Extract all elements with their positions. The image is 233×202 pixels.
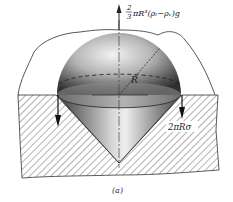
surface-tension-label: 2πRσ [167,122,191,132]
buoyancy-frac-den: 3 [127,13,132,21]
radius-label: R [130,75,138,85]
buoyancy-arrow-icon [117,4,122,13]
buoyancy-force-label: πR³(ρₗ−ρᵥ)g [132,9,180,18]
buoyancy-frac-num: 2 [126,4,132,12]
bubble-force-diagram: R 2 3 πR³(ρₗ−ρᵥ)g 2πRσ (a) [0,0,233,202]
figure-caption: (a) [112,186,123,195]
